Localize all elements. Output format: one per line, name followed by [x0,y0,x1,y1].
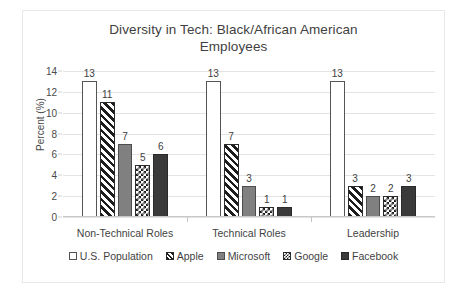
bar-value-label-us-population-2: 13 [332,68,343,79]
y-tick-mark-12 [58,91,62,92]
legend-item-apple[interactable]: Apple [166,250,204,262]
bar-value-label-google-2: 2 [388,183,394,194]
y-tick-label-0: 0 [51,212,57,223]
legend-swatch-apple-icon [166,252,174,260]
bar-group-2: 133223 [311,71,435,217]
bar-slot-microsoft-0: 7 [118,71,133,217]
bar-microsoft-0[interactable] [118,144,133,217]
y-tick-mark-10 [58,112,62,113]
legend-item-facebook[interactable]: Facebook [341,250,398,262]
chart-title-line-1: Diversity in Tech: Black/African America… [23,21,444,38]
bar-value-label-apple-2: 3 [352,173,358,184]
bar-microsoft-1[interactable] [242,186,257,217]
bar-value-label-microsoft-1: 3 [246,173,252,184]
bar-slot-apple-2: 3 [348,71,363,217]
legend-swatch-microsoft-icon [217,252,225,260]
bar-value-label-facebook-2: 3 [406,173,412,184]
category-label-1: Technical Roles [187,227,311,239]
bar-google-2[interactable] [383,196,398,217]
plot-area: 02468101214 1311756137311133223 [63,71,435,217]
y-tick-label-6: 6 [51,149,57,160]
bar-slot-apple-1: 7 [224,71,239,217]
legend-label-apple: Apple [177,250,204,262]
legend-label-facebook: Facebook [352,250,398,262]
bar-apple-0[interactable] [100,102,115,217]
bar-slot-facebook-0: 6 [153,71,168,217]
bar-slot-us-population-0: 13 [82,71,97,217]
bar-value-label-us-population-0: 13 [84,68,95,79]
chart-legend: U.S. PopulationAppleMicrosoftGoogleFaceb… [23,250,444,262]
legend-swatch-us-population-icon [69,252,77,260]
x-axis-baseline [63,216,435,217]
legend-label-us-population: U.S. Population [80,250,153,262]
bar-facebook-2[interactable] [401,186,416,217]
y-tick-label-12: 12 [46,86,57,97]
y-tick-label-2: 2 [51,191,57,202]
bar-value-label-us-population-1: 13 [208,68,219,79]
bar-us-population-2[interactable] [330,81,345,217]
legend-item-google[interactable]: Google [283,250,328,262]
bar-slot-microsoft-1: 3 [242,71,257,217]
bar-apple-1[interactable] [224,144,239,217]
bar-us-population-1[interactable] [206,81,221,217]
y-tick-label-14: 14 [46,66,57,77]
bar-slot-microsoft-2: 2 [366,71,381,217]
bar-value-label-apple-1: 7 [228,131,234,142]
y-tick-mark-8 [58,133,62,134]
bar-value-label-facebook-1: 1 [282,194,288,205]
category-label-2: Leadership [311,227,435,239]
y-tick-label-4: 4 [51,170,57,181]
y-axis-title: Percent (%) [35,80,46,170]
y-tick-mark-14 [58,71,62,72]
bar-value-label-microsoft-0: 7 [122,131,128,142]
bar-facebook-0[interactable] [153,154,168,217]
bar-slot-apple-0: 11 [100,71,115,217]
bar-slot-us-population-2: 13 [330,71,345,217]
chart-container: Diversity in Tech: Black/African America… [22,10,445,283]
bar-slot-us-population-1: 13 [206,71,221,217]
y-tick-mark-2 [58,196,62,197]
bar-group-1: 137311 [187,71,311,217]
bar-slot-google-0: 5 [135,71,150,217]
gridline-0 [63,217,435,218]
bar-slot-google-2: 2 [383,71,398,217]
chart-title-line-2: Employees [23,38,444,55]
category-label-0: Non-Technical Roles [63,227,187,239]
y-tick-mark-4 [58,175,62,176]
bar-value-label-google-0: 5 [140,152,146,163]
legend-item-us-population[interactable]: U.S. Population [69,250,153,262]
bar-google-0[interactable] [135,165,150,217]
bar-group-0: 1311756 [63,71,187,217]
y-tick-mark-6 [58,154,62,155]
bar-us-population-0[interactable] [82,81,97,217]
bar-value-label-microsoft-2: 2 [370,183,376,194]
category-separator-1 [187,217,188,222]
y-tick-label-10: 10 [46,107,57,118]
legend-swatch-facebook-icon [341,252,349,260]
y-tick-mark-0 [58,217,62,218]
bar-slot-google-1: 1 [259,71,274,217]
y-tick-label-8: 8 [51,128,57,139]
bar-value-label-facebook-0: 6 [158,141,164,152]
bar-value-label-google-1: 1 [264,194,270,205]
legend-item-microsoft[interactable]: Microsoft [217,250,271,262]
legend-swatch-google-icon [283,252,291,260]
chart-title: Diversity in Tech: Black/African America… [23,21,444,55]
bar-apple-2[interactable] [348,186,363,217]
bar-value-label-apple-0: 11 [102,89,112,100]
bar-microsoft-2[interactable] [366,196,381,217]
bar-slot-facebook-2: 3 [401,71,416,217]
bar-slot-facebook-1: 1 [277,71,292,217]
legend-label-google: Google [294,250,328,262]
legend-label-microsoft: Microsoft [228,250,271,262]
category-separator-2 [311,217,312,222]
